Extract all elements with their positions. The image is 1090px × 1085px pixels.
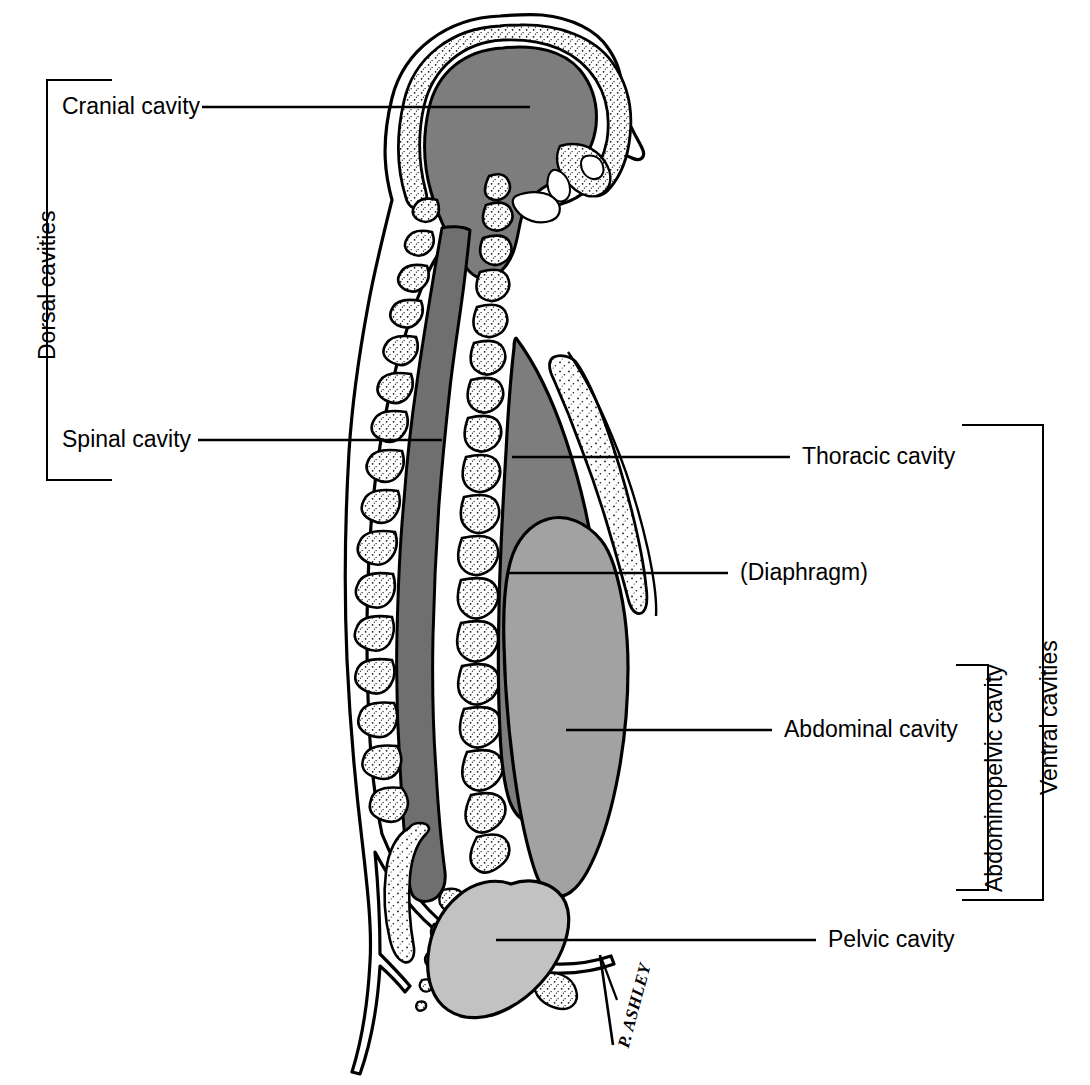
abdominal-cavity-group	[504, 518, 628, 897]
body-cavities-illustration	[0, 0, 1090, 1085]
label-cranial-cavity: Cranial cavity	[62, 93, 200, 119]
vertebra-body	[466, 793, 506, 832]
label-spinal-cavity: Spinal cavity	[62, 426, 191, 452]
vertebra-body	[468, 378, 504, 413]
label-pelvic-cavity: Pelvic cavity	[828, 926, 955, 952]
spinous-process	[383, 336, 417, 365]
label-abdominopelvic-cavity: Abdominopelvic cavity	[981, 664, 1007, 892]
label-ventral-cavities: Ventral cavities	[1036, 640, 1062, 795]
vertebra-body	[458, 664, 499, 704]
vertebra-body	[485, 174, 510, 200]
vertebra-body	[460, 707, 501, 747]
diagram-canvas: Cranial cavity Spinal cavity Thoracic ca…	[0, 0, 1090, 1085]
vertebra-body	[470, 835, 509, 873]
spinous-process	[356, 573, 395, 608]
vertebra-body	[463, 455, 501, 492]
label-diaphragm: (Diaphragm)	[740, 559, 868, 585]
label-thoracic-cavity: Thoracic cavity	[802, 443, 955, 469]
label-abdominal-cavity: Abdominal cavity	[784, 716, 958, 742]
spinous-process	[390, 300, 423, 328]
abdominal-cavity-region	[504, 518, 628, 897]
spinous-process	[355, 659, 394, 693]
vertebra-body	[480, 236, 511, 265]
spinous-process	[377, 373, 412, 403]
label-dorsal-cavities: Dorsal cavities	[34, 210, 60, 360]
spinous-process	[367, 450, 404, 482]
coccyx-segment	[416, 1001, 426, 1010]
vertebra-body	[462, 750, 503, 790]
vertebra-body	[465, 416, 502, 452]
spinous-process	[355, 616, 394, 651]
spinous-process	[370, 788, 408, 822]
spinous-process	[358, 531, 397, 565]
spinous-process	[413, 199, 439, 222]
spinous-process	[362, 490, 400, 523]
signature-stroke	[600, 955, 613, 1045]
vertebra-body	[483, 203, 513, 231]
vertebra-body	[473, 305, 507, 337]
vertebra-body	[471, 341, 506, 375]
vertebra-body	[458, 536, 498, 575]
vertebra-body	[458, 578, 498, 618]
vertebra-body	[457, 621, 498, 661]
spinous-process	[405, 231, 434, 256]
spinous-process	[398, 265, 429, 292]
vertebra-body	[476, 270, 509, 301]
vertebra-body	[461, 495, 499, 533]
spinous-process	[358, 702, 397, 737]
spinous-process	[362, 745, 401, 779]
spinous-process	[372, 411, 408, 442]
